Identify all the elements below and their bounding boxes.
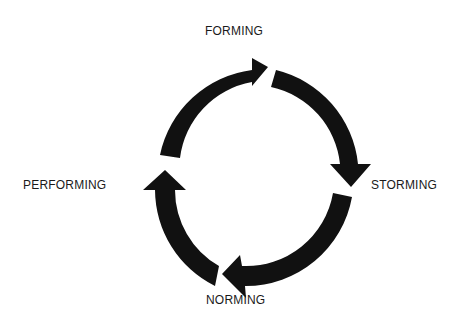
curved-arrow-icon <box>271 70 371 187</box>
stage-label-storming: STORMING <box>371 178 437 192</box>
stage-label-norming: NORMING <box>206 293 265 307</box>
curved-arrow-icon <box>143 170 219 286</box>
stage-label-performing: PERFORMING <box>23 178 106 192</box>
curved-arrow-icon <box>160 58 268 158</box>
cycle-arrows <box>0 0 465 326</box>
curved-arrow-icon <box>222 193 352 298</box>
stage-label-forming: FORMING <box>205 24 263 38</box>
